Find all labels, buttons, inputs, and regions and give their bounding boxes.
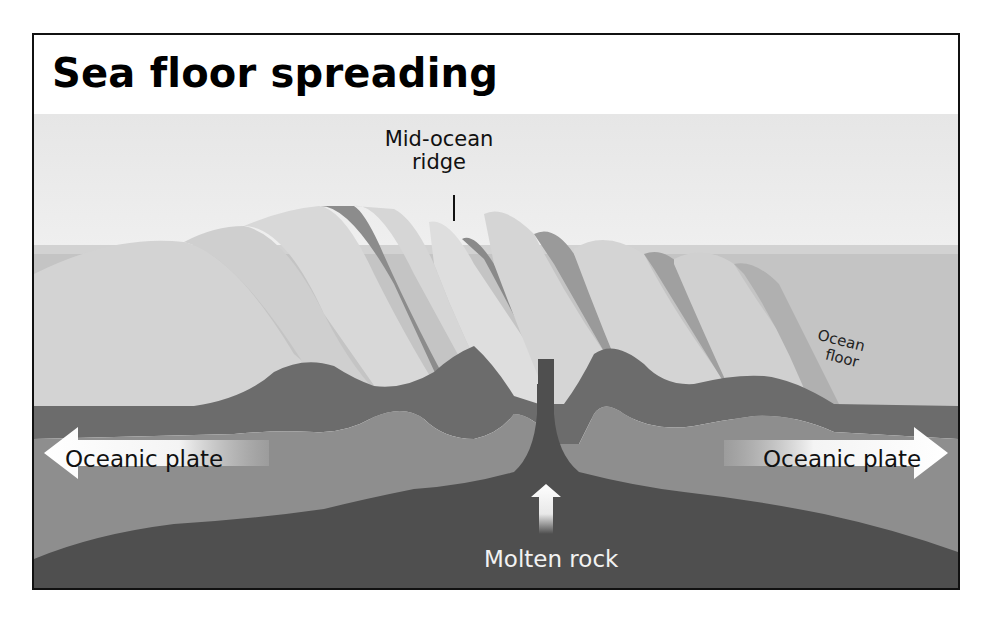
diagram-title: Sea floor spreading	[52, 43, 498, 103]
mid-ocean-ridge-label: Mid-ocean ridge	[379, 128, 499, 174]
right-oceanic-plate-label: Oceanic plate	[763, 447, 921, 472]
mid-ocean-ridge-label-line1: Mid-ocean	[379, 128, 499, 151]
diagram-frame: Sea floor spreading	[32, 33, 960, 590]
magma-conduit	[538, 359, 554, 469]
left-oceanic-plate-label: Oceanic plate	[65, 447, 223, 472]
mid-ocean-ridge-label-line2: ridge	[379, 151, 499, 174]
molten-rock-label: Molten rock	[484, 547, 618, 572]
